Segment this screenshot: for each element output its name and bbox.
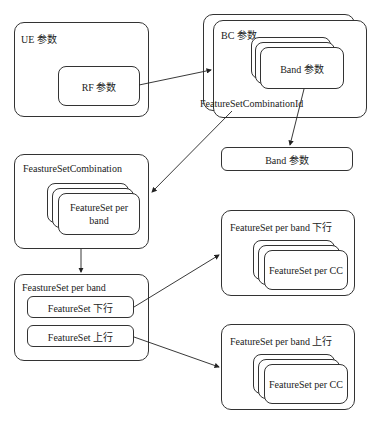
fspb-title: FeastureSet per band xyxy=(22,282,106,293)
ul-item-box: FeatureSet per CC xyxy=(264,364,348,404)
arrow-rf-to-bc xyxy=(139,70,211,85)
fs-ul-label: FeatureSet 上行 xyxy=(48,329,113,344)
fspb-box: FeastureSet per band FeatureSet 下行 Featu… xyxy=(14,274,149,361)
band-params-inner-label: Band 参数 xyxy=(280,61,324,76)
rf-params-box: RF 参数 xyxy=(58,66,140,106)
band-params-label: Band 参数 xyxy=(265,152,309,167)
fspb-ul-box: FeatureSet per band 上行 FeatureSet per CC xyxy=(221,324,355,410)
fsc-box: FeastureSetCombination FeatureSet per ba… xyxy=(14,154,149,249)
arrow-fscid-to-fsc xyxy=(152,111,232,192)
fsc-title: FeastureSetCombination xyxy=(23,163,122,174)
fsc-id-label: FeatureSetCombinationId xyxy=(200,98,303,109)
fs-dl-box: FeatureSet 下行 xyxy=(27,296,134,318)
dl-item-box: FeatureSet per CC xyxy=(264,250,348,290)
band-params-box: Band 参数 xyxy=(221,147,353,171)
fsc-item-label: FeatureSet per band xyxy=(68,201,130,227)
fs-ul-box: FeatureSet 上行 xyxy=(27,325,134,347)
fspb-dl-title: FeatureSet per band 下行 xyxy=(230,219,332,234)
ul-item-label: FeatureSet per CC xyxy=(269,379,343,390)
fs-dl-label: FeatureSet 下行 xyxy=(48,300,113,315)
bc-params-box: BC 参数 Band 参数 FeatureSetCombinationId xyxy=(213,20,367,118)
fspb-ul-title: FeatureSet per band 上行 xyxy=(230,333,332,348)
fspb-dl-box: FeatureSet per band 下行 FeatureSet per CC xyxy=(221,210,355,296)
ue-params-title: UE 参数 xyxy=(21,31,57,46)
fsc-item-box: FeatureSet per band xyxy=(58,193,140,235)
dl-item-label: FeatureSet per CC xyxy=(269,265,343,276)
band-params-inner: Band 参数 xyxy=(260,47,344,89)
rf-params-label: RF 参数 xyxy=(82,79,117,94)
ue-params-box: UE 参数 RF 参数 xyxy=(14,22,149,117)
